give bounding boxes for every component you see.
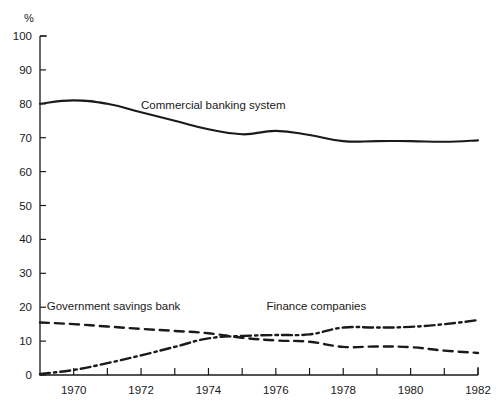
chart-container: 0102030405060708090100197019721974197619…	[0, 0, 496, 408]
series-label-1: Government savings bank	[47, 300, 181, 312]
chart-axes	[40, 36, 478, 375]
x-tick-label: 1978	[330, 384, 356, 396]
y-tick-label: 20	[19, 301, 32, 313]
chart-series	[40, 100, 478, 374]
y-tick-label: 50	[19, 200, 32, 212]
y-tick-label: 90	[19, 64, 32, 76]
line-chart: 0102030405060708090100197019721974197619…	[0, 0, 496, 408]
y-tick-label: 40	[19, 233, 32, 245]
series-label-0: Commercial banking system	[141, 99, 285, 111]
x-tick-label: 1972	[128, 384, 154, 396]
chart-tick-labels: 0102030405060708090100197019721974197619…	[13, 30, 491, 396]
x-tick-label: 1970	[61, 384, 87, 396]
chart-series-labels: Commercial banking systemGovernment savi…	[47, 99, 367, 312]
y-tick-label: 60	[19, 166, 32, 178]
y-axis-unit-label: %	[24, 12, 34, 24]
series-line-2	[40, 320, 478, 374]
y-tick-label: 100	[13, 30, 32, 42]
y-tick-label: 0	[26, 369, 32, 381]
y-tick-label: 10	[19, 335, 32, 347]
x-tick-label: 1976	[263, 384, 289, 396]
y-tick-label: 80	[19, 98, 32, 110]
chart-ticks	[40, 36, 478, 375]
x-tick-label: 1980	[398, 384, 424, 396]
x-tick-label: 1974	[196, 384, 222, 396]
y-tick-label: 30	[19, 267, 32, 279]
y-tick-label: 70	[19, 132, 32, 144]
series-label-2: Finance companies	[266, 300, 366, 312]
axis-lines	[40, 36, 478, 375]
x-tick-label: 1982	[465, 384, 491, 396]
